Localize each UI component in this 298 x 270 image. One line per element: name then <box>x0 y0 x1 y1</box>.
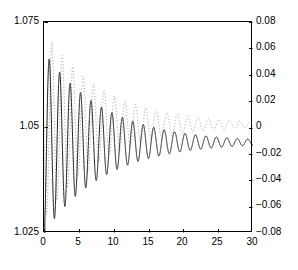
figure-chart-delta-vs-T: 1.075 1.05 1.025 0.08 0.06 0.04 0.02 0 −… <box>0 0 298 270</box>
tick-marks-group <box>45 23 254 234</box>
plot-svg <box>44 22 253 233</box>
series-line-delta <box>44 59 253 233</box>
y-axis-right-tick-4: 0 <box>256 121 262 131</box>
y-axis-left-tick-0: 1.075 <box>0 16 39 26</box>
y-axis-right-tick-6: −0.04 <box>256 174 281 184</box>
x-axis-tick-1: 5 <box>68 237 88 247</box>
y-axis-left-tick-1: 1.05 <box>0 121 39 131</box>
y-axis-right-tick-8: −0.08 <box>256 227 281 237</box>
y-axis-right-tick-3: 0.02 <box>256 95 275 105</box>
y-axis-left-tick-2: 1.025 <box>0 227 39 237</box>
y-axis-right-tick-0: 0.08 <box>256 16 275 26</box>
y-axis-right-tick-2: 0.04 <box>256 69 275 79</box>
x-axis-tick-5: 25 <box>207 237 227 247</box>
x-axis-tick-6: 30 <box>242 237 262 247</box>
y-axis-right-tick-7: −0.06 <box>256 200 281 210</box>
series-line-delta-prime <box>44 42 253 215</box>
x-axis-tick-0: 0 <box>33 237 53 247</box>
plot-area <box>43 21 252 232</box>
y-axis-right-tick-5: −0.02 <box>256 148 281 158</box>
y-axis-right-tick-1: 0.06 <box>256 42 275 52</box>
x-axis-tick-4: 20 <box>172 237 192 247</box>
x-axis-tick-3: 15 <box>138 237 158 247</box>
x-axis-tick-2: 10 <box>103 237 123 247</box>
